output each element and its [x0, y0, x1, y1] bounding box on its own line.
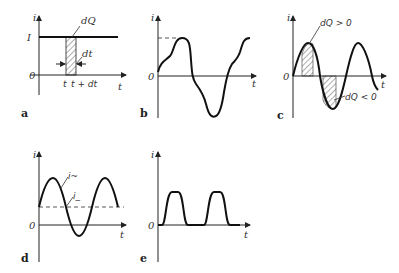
panel-c: i 0 dQ > 0 dQ < 0 t c [277, 12, 386, 122]
origin-label: 0 [283, 71, 290, 82]
pos-leader [309, 26, 320, 44]
panel-label-c: c [277, 109, 284, 122]
panel-label-e: e [140, 252, 147, 265]
x-axis-label: t [252, 78, 257, 89]
dq-positive-label: dQ > 0 [320, 18, 352, 28]
y-axis-label: i [151, 149, 154, 160]
panel-label-a: a [21, 107, 28, 120]
x-axis-label: t [120, 229, 125, 240]
ac-curve [39, 178, 118, 236]
origin-label: 0 [29, 220, 36, 231]
x-axis-label: t [118, 81, 123, 92]
origin-label: 0 [29, 70, 36, 81]
level-label: I [26, 32, 32, 43]
panel-e: i 0 t e [140, 149, 250, 265]
t-dt-tick-label: t + dt [71, 79, 98, 89]
x-axis-label: t [381, 79, 386, 90]
hatched-strip [66, 37, 76, 75]
panel-label-d: d [21, 252, 29, 265]
dt-label: dt [82, 48, 93, 59]
dc-label: i_ [73, 191, 81, 201]
current-waveforms-figure: i I 0 dQ dt t t + dt t a i 0 t b i 0 dQ … [0, 0, 399, 273]
y-axis-label: i [151, 12, 154, 23]
panel-b: i 0 t b [140, 12, 257, 120]
waveform-curve [158, 38, 250, 117]
negative-area [323, 76, 336, 109]
y-axis-label: i [287, 12, 290, 23]
y-axis-label: i [33, 149, 36, 160]
ac-label: i~ [68, 171, 78, 181]
panel-label-b: b [140, 107, 148, 120]
dq-leader [72, 26, 80, 37]
x-axis-label: t [244, 229, 249, 240]
dq-negative-label: dQ < 0 [345, 92, 377, 102]
origin-label: 0 [148, 71, 155, 82]
t-tick-label: t [63, 79, 67, 89]
y-axis-label: i [33, 12, 36, 23]
origin-label: 0 [148, 220, 155, 231]
dq-label: dQ [81, 15, 96, 26]
panel-d: i 0 i~ i_ t d [21, 149, 126, 265]
panel-a: i I 0 dQ dt t t + dt t a [21, 12, 126, 120]
pulse-curve [158, 192, 240, 225]
